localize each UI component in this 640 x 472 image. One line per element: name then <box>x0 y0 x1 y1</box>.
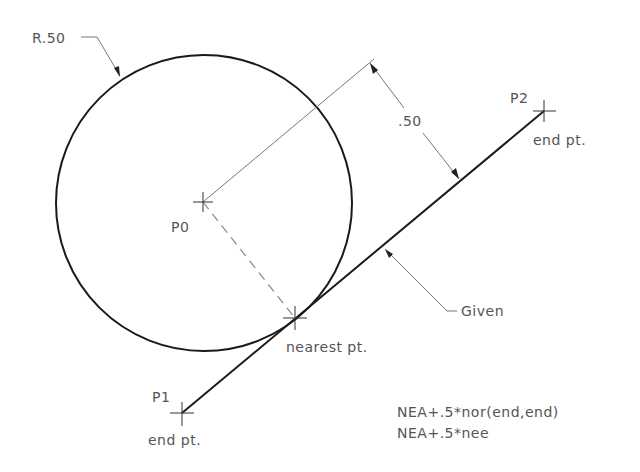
dimension-50: .50 <box>370 63 459 179</box>
p0-crosshair-icon <box>193 192 213 212</box>
radius-label: R.50 <box>32 30 66 46</box>
radius-leader: R.50 <box>32 30 120 77</box>
given-leader: Given <box>385 249 504 319</box>
given-line <box>182 111 544 413</box>
nearest-label: nearest pt. <box>286 339 368 355</box>
given-label: Given <box>461 303 504 319</box>
formula-2: NEA+.5*nee <box>397 425 489 441</box>
radius-arrow-icon <box>114 66 120 77</box>
p2-label: P2 <box>510 90 528 106</box>
p1-label: P1 <box>152 389 170 405</box>
cad-drawing: .50 R.50 Given P0 P2 end pt. P1 end pt. … <box>0 0 640 472</box>
p1-end-label: end pt. <box>148 432 201 448</box>
dimension-label: .50 <box>398 113 422 129</box>
p0-label: P0 <box>171 219 189 235</box>
p2-crosshair-icon <box>533 100 556 122</box>
p2-end-label: end pt. <box>533 132 586 148</box>
dashed-normal-line <box>203 202 295 318</box>
given-arrow-icon <box>385 249 393 258</box>
formula-1: NEA+.5*nor(end,end) <box>397 404 559 420</box>
